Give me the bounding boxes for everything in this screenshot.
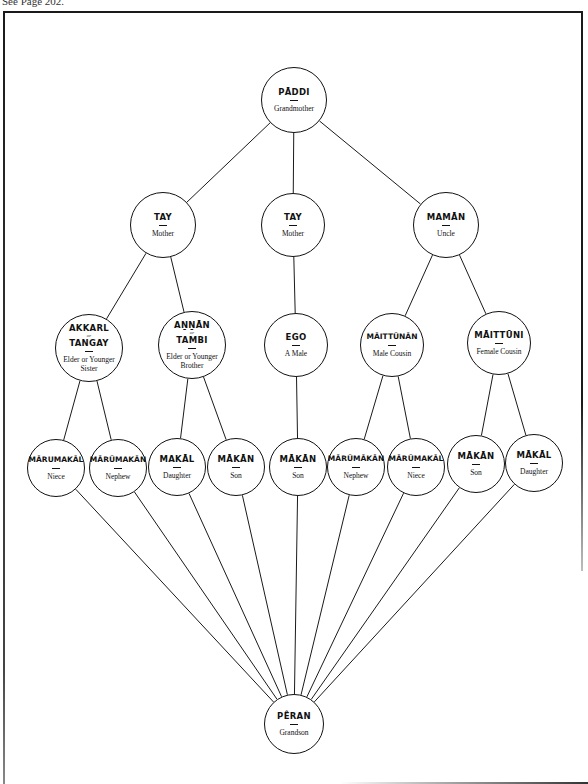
- separator-dash: [388, 345, 396, 346]
- kin-node-marumakal-2: MĀRŪMAKĀLNiece: [387, 438, 445, 496]
- separator-dash: [114, 468, 122, 469]
- kin-node-marumakan-2: MĀRŪMĀKĀNNephew: [327, 438, 385, 496]
- kin-term-alt: TAMBI: [176, 335, 207, 345]
- separator-dash: [530, 463, 538, 464]
- edge-akkarl-to-marumakan-1: [97, 381, 111, 440]
- kin-term: MĀITTŪNĀN: [367, 332, 418, 342]
- kin-gloss: Female Cousin: [476, 347, 521, 356]
- edge-paddi-to-maman: [319, 121, 420, 204]
- kin-node-paddi: PĀDDIGrandmother: [261, 67, 327, 133]
- kin-term: TAY: [284, 212, 302, 222]
- edge-akkarl-to-marumakal-1: [64, 381, 80, 440]
- kin-term: PĀDDI: [278, 87, 310, 97]
- separator-dash: [232, 467, 240, 468]
- kin-gloss: Grandmother: [274, 104, 314, 113]
- edge-makan-3-to-peran: [311, 488, 459, 700]
- kin-gloss-line2: Sister: [80, 364, 97, 373]
- kin-node-tay-center: TAYMother: [261, 193, 325, 257]
- separator-dash: [294, 467, 302, 468]
- separator-dash: [85, 351, 93, 352]
- kin-node-marumakan-1: MĀRŪMAKĀNNephew: [89, 439, 147, 497]
- kin-gloss-line2: Brother: [181, 361, 204, 370]
- separator-dash: [495, 343, 503, 344]
- kin-gloss: Niece: [407, 471, 425, 480]
- edge-marumakan-1-to-peran: [134, 492, 277, 699]
- edge-maman-to-maittunan: [405, 255, 432, 316]
- kin-node-maittunan: MĀITTŪNĀNMale Cousin: [360, 313, 424, 377]
- edge-ego-to-makan-2: [297, 377, 298, 438]
- kin-gloss: Son: [230, 471, 242, 480]
- kin-node-annan: AṈṈĀNorTAMBIElder or YoungerBrother: [158, 311, 226, 379]
- separator-dash: [159, 225, 167, 226]
- edge-annan-to-makan-1: [204, 377, 227, 440]
- kin-node-makal-2: MĀKĀLDaughter: [505, 434, 563, 492]
- edge-marumakal-2-to-peran: [307, 493, 404, 697]
- kin-term: MĀITTŪNI: [474, 330, 524, 340]
- kin-term: MĀRŪMĀKĀN: [328, 454, 384, 464]
- kin-term: AṈṈĀN: [174, 320, 210, 330]
- kin-term: MĀKĀN: [458, 451, 495, 461]
- kin-node-maittuni: MĀITTŪNIFemale Cousin: [467, 311, 531, 375]
- kin-gloss: Son: [470, 468, 482, 477]
- kin-gloss: Elder or Younger: [166, 352, 217, 361]
- kin-node-makan-3: MĀKĀNSon: [447, 435, 505, 493]
- kin-gloss: Daughter: [163, 471, 191, 480]
- edge-tay-left-to-annan: [171, 257, 184, 312]
- kin-term: TAY: [154, 212, 172, 222]
- edge-maittunan-to-marumakal-2: [398, 376, 410, 438]
- kin-term: MĀRŪMAKĀN: [90, 455, 146, 465]
- edge-marumakan-2-to-peran: [301, 495, 349, 695]
- separator-dash: [412, 467, 420, 468]
- kin-term: MĀKĀL: [516, 450, 551, 460]
- edge-makan-2-to-peran: [294, 496, 297, 694]
- edge-maman-to-maittuni: [460, 255, 486, 314]
- separator-dash: [352, 467, 360, 468]
- edge-tay-center-to-ego: [294, 257, 295, 313]
- separator-dash: [52, 468, 60, 469]
- kin-term: PÊRAN: [277, 711, 311, 721]
- kin-node-maman: MAMĀNUncle: [413, 192, 479, 258]
- separator-dash: [472, 464, 480, 465]
- kin-gloss: Nephew: [344, 471, 369, 480]
- kin-gloss: Son: [292, 471, 304, 480]
- edge-makal-1-to-peran: [189, 493, 282, 696]
- kin-term: MAMĀN: [427, 212, 466, 222]
- edge-annan-to-makal-1: [181, 379, 188, 438]
- kin-gloss: Daughter: [520, 467, 548, 476]
- kin-term: MĀKĀN: [218, 454, 255, 464]
- kin-term: MAKĀL: [159, 454, 194, 464]
- edge-marumakal-1-to-peran: [76, 489, 274, 702]
- kin-gloss: Mother: [152, 229, 174, 238]
- separator-dash: [290, 100, 298, 101]
- kin-term-alt: TANGAY: [69, 338, 109, 348]
- kin-gloss: Niece: [47, 472, 65, 481]
- kin-node-makan-1: MĀKĀNSon: [207, 438, 265, 496]
- separator-dash: [292, 345, 300, 346]
- kin-node-akkarl: AKKARLorTANGAYElder or YoungerSister: [55, 314, 123, 382]
- kin-term: AKKARL: [69, 323, 109, 333]
- edge-makan-1-to-peran: [242, 495, 287, 694]
- separator-dash: [442, 225, 450, 226]
- edge-maittuni-to-makan-3: [481, 374, 493, 435]
- kin-node-ego: EGOA Male: [264, 313, 328, 377]
- kin-term: MĀRŪMAKĀL: [389, 454, 444, 464]
- kin-node-marumakal-1: MĀRUMAKĀLNiece: [27, 439, 85, 497]
- separator-dash: [289, 225, 297, 226]
- edge-maittuni-to-makal-2: [508, 374, 526, 435]
- edge-maittunan-to-marumakan-2: [364, 376, 383, 439]
- kin-term: MĀKĀN: [280, 454, 317, 464]
- edge-tay-left-to-akkarl: [107, 253, 146, 319]
- separator-dash: [188, 348, 196, 349]
- kin-gloss: Male Cousin: [373, 349, 412, 358]
- kin-gloss: Mother: [282, 229, 304, 238]
- separator-dash: [173, 467, 181, 468]
- kin-node-makal-1: MAKĀLDaughter: [148, 438, 206, 496]
- kin-term: MĀRUMAKĀL: [29, 455, 84, 465]
- kin-node-tay-left: TAYMother: [130, 192, 196, 258]
- kin-gloss: Uncle: [437, 229, 455, 238]
- kin-gloss: Elder or Younger: [63, 355, 114, 364]
- kin-term: EGO: [286, 332, 307, 342]
- edge-paddi-to-tay-left: [187, 123, 270, 202]
- separator-dash: [290, 724, 298, 725]
- kin-gloss: Nephew: [106, 472, 131, 481]
